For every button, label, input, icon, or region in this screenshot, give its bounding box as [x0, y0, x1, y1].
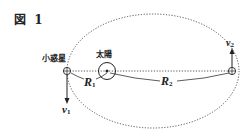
- v2-sub: 2: [230, 41, 234, 49]
- orbit-diagram: 図 1 小惑星 太陽 R1 R2 v1 v2: [0, 0, 248, 134]
- r1-dimension-line: [71, 73, 84, 79]
- sun-center-dot: [106, 70, 109, 73]
- r2-label: R2: [161, 75, 173, 88]
- sun-label: 太陽: [96, 51, 112, 59]
- r1-sub: 1: [92, 81, 96, 89]
- asteroid-label: 小惑星: [42, 55, 66, 63]
- v1-label: v1: [62, 104, 70, 116]
- r1-main: R: [84, 75, 92, 89]
- r2-sub: 2: [169, 80, 173, 88]
- v1-sub: 1: [67, 108, 71, 116]
- v2-label: v2: [226, 38, 234, 49]
- r1-label: R1: [84, 76, 96, 89]
- r2-dimension-line-left: [110, 73, 160, 81]
- r2-main: R: [161, 74, 169, 88]
- figure-title: 図 1: [14, 14, 45, 26]
- r2-dimension-line-right: [177, 73, 229, 81]
